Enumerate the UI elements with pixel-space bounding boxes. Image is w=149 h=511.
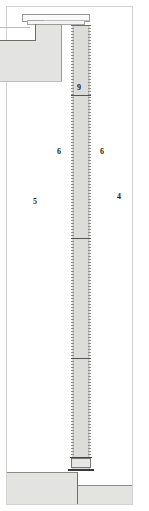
annotation-label-6-left: 6 <box>57 148 61 156</box>
annotation-label-9: 9 <box>77 84 81 92</box>
column-hatch-left <box>71 25 74 470</box>
foundation-lower-step <box>78 485 132 504</box>
column-joint <box>71 95 91 96</box>
wall-hidden-line-a <box>0 27 30 28</box>
annotation-label-5: 5 <box>33 198 37 206</box>
annotation-label-6-right: 6 <box>100 148 104 156</box>
wall-edge-top <box>36 24 62 25</box>
foundation-step-edge <box>77 472 78 504</box>
column-hatch-right <box>88 25 91 470</box>
annotation-label-4: 4 <box>117 193 121 201</box>
base-plate-bottom-line <box>68 469 94 471</box>
upper-wall-block <box>36 24 62 40</box>
lower-wall-block <box>0 40 62 82</box>
wall-edge-step <box>0 40 36 41</box>
wall-edge-left-upper <box>35 24 36 41</box>
wall-edge-bottom <box>0 81 62 82</box>
wall-hidden-line-b <box>44 20 90 21</box>
wall-edge-right <box>61 24 62 82</box>
column-joint <box>71 358 91 359</box>
column-joint <box>71 238 91 239</box>
column-top-edge <box>71 25 91 26</box>
foundation-lower-edge <box>78 485 132 486</box>
base-plate <box>71 458 91 468</box>
foundation-upper-step <box>7 472 78 504</box>
drawing-canvas: 9 6 6 5 4 <box>0 0 149 511</box>
foundation-upper-edge <box>7 472 78 473</box>
